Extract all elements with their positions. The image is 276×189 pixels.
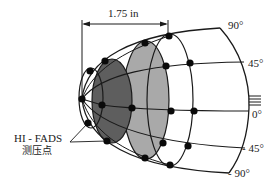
- angle-label-0: 0°: [252, 109, 262, 120]
- angle-label-minus-45: - 45°: [242, 143, 264, 154]
- arrow-left-icon: [82, 22, 90, 27]
- pressure-port-dot: [184, 142, 191, 149]
- pressure-port-dot: [159, 139, 166, 146]
- pressure-port-dot: [141, 154, 148, 161]
- pressure-port-dot: [186, 59, 193, 66]
- pressure-port-dot: [86, 67, 93, 74]
- dark-gray-ring: [92, 59, 132, 143]
- pressure-port-dot: [165, 32, 172, 39]
- angle-label-90: 90°: [228, 20, 243, 31]
- dimension-label: 1.75 in: [108, 8, 139, 19]
- pressure-port-dot: [98, 101, 105, 108]
- pressure-port-dot: [167, 107, 174, 114]
- angle-label-45: 45°: [248, 58, 263, 69]
- sensor-label-cn: 测压点: [22, 146, 52, 156]
- arrow-right-icon: [160, 22, 168, 27]
- pressure-port-dot: [84, 119, 91, 126]
- pressure-port-dot: [101, 57, 108, 64]
- pressure-port-dot: [78, 95, 85, 102]
- angle-label-minus-90: - 90°: [228, 168, 250, 179]
- pressure-port-dot: [128, 104, 135, 111]
- sensor-label-en: HI - FADS: [14, 133, 62, 144]
- sting-lines: [249, 96, 261, 105]
- pressure-port-dot: [166, 161, 173, 168]
- pressure-port-dot: [141, 39, 148, 46]
- pressure-port-dot: [162, 62, 169, 69]
- pressure-port-dot: [190, 107, 197, 114]
- pressure-port-dot: [103, 137, 110, 144]
